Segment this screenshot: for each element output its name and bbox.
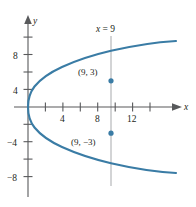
point-marker-9-neg3 bbox=[108, 131, 113, 136]
point-marker-9-3 bbox=[108, 78, 113, 83]
point-label-9-neg3: (9, −3) bbox=[71, 138, 96, 147]
x-axis bbox=[14, 103, 182, 112]
y-tick-label-neg-8: −8 bbox=[7, 174, 17, 184]
y-tick-label-neg-4: −4 bbox=[7, 139, 17, 149]
vertical-line-equation: = 9 bbox=[100, 24, 115, 34]
point-label-9-3: (9, 3) bbox=[78, 68, 98, 77]
x-tick-label-12: 12 bbox=[127, 115, 137, 125]
y-axis-label: y bbox=[33, 17, 37, 27]
x-tick-label-4: 4 bbox=[60, 115, 65, 125]
parabola-lower-branch bbox=[28, 107, 176, 173]
x-axis-label: x bbox=[184, 103, 188, 113]
x-tick-label-8: 8 bbox=[95, 115, 100, 125]
y-tick-label-8: 8 bbox=[13, 52, 18, 62]
parabola-figure: y x 8 4 −4 −8 4 8 12 x = 9 (9, 3) (9, −3… bbox=[0, 0, 196, 207]
vertical-line-annotation: x = 9 bbox=[96, 25, 115, 35]
y-tick-label-4: 4 bbox=[13, 87, 18, 97]
parabola-upper-branch bbox=[28, 41, 176, 107]
